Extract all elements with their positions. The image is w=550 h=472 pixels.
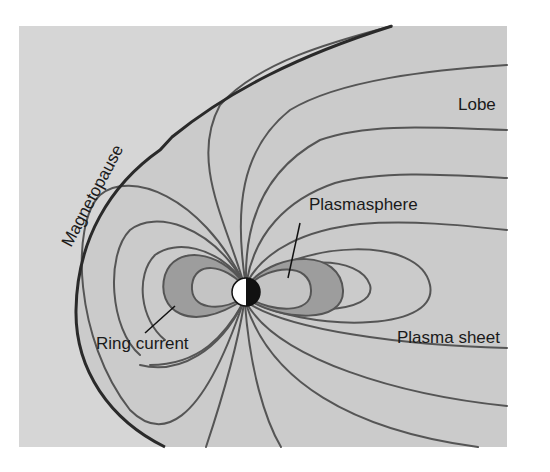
earth-icon	[232, 278, 260, 306]
ring-current-label: Ring current	[96, 334, 189, 353]
plasmasphere-label: Plasmasphere	[309, 195, 418, 214]
lobe-label: Lobe	[458, 95, 496, 114]
magnetosphere-diagram: Magnetopause Lobe Plasmasphere Ring curr…	[0, 0, 550, 472]
plasma-sheet-label: Plasma sheet	[397, 328, 500, 347]
